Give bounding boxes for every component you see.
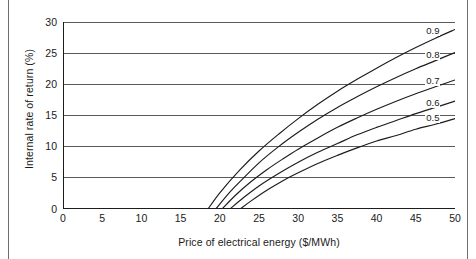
x-tick-label-30: 30 xyxy=(283,213,313,224)
curve-label-0.8: 0.8 xyxy=(425,50,440,60)
x-tick-label-0: 0 xyxy=(48,213,78,224)
curve-label-0.7: 0.7 xyxy=(425,76,440,86)
curve-label-0.5: 0.5 xyxy=(425,113,440,123)
curve-0.5 xyxy=(240,119,455,209)
x-tick-label-25: 25 xyxy=(244,213,274,224)
y-tick-label-30: 30 xyxy=(31,17,57,27)
x-tick-label-15: 15 xyxy=(166,213,196,224)
y-tick-label-5: 5 xyxy=(31,172,57,182)
curve-0.8 xyxy=(216,53,455,209)
curve-0.7 xyxy=(222,80,455,209)
x-tick-label-20: 20 xyxy=(205,213,235,224)
page-rule-left xyxy=(8,0,9,259)
x-tick-label-35: 35 xyxy=(322,213,352,224)
y-tick-label-10: 10 xyxy=(31,141,57,151)
x-tick-label-45: 45 xyxy=(401,213,431,224)
y-tick-label-0: 0 xyxy=(31,204,57,214)
curve-label-0.9: 0.9 xyxy=(425,26,440,36)
plot-area xyxy=(63,22,455,209)
chart-figure: Internal rate of return (%) Price of ele… xyxy=(0,0,476,259)
x-tick-label-5: 5 xyxy=(87,213,117,224)
x-tick-label-10: 10 xyxy=(126,213,156,224)
y-tick-label-20: 20 xyxy=(31,79,57,89)
y-tick-label-25: 25 xyxy=(31,48,57,58)
curve-0.9 xyxy=(208,29,455,209)
x-axis-title: Price of electrical energy ($/MWh) xyxy=(63,236,455,248)
curve-label-0.6: 0.6 xyxy=(425,98,440,108)
y-tick-label-15: 15 xyxy=(31,110,57,120)
plot-svg xyxy=(63,22,455,209)
x-tick-label-40: 40 xyxy=(362,213,392,224)
x-tick-label-50: 50 xyxy=(440,213,470,224)
